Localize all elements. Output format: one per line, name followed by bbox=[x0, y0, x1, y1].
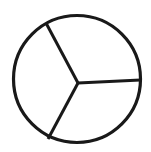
diagram-canvas bbox=[0, 0, 151, 152]
circle-thirds-figure bbox=[0, 0, 151, 152]
